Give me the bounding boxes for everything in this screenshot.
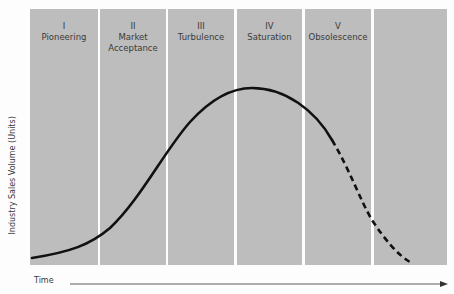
x-axis-label: Time (34, 276, 54, 285)
time-arrow-icon (440, 281, 448, 287)
sales-curve (0, 0, 454, 294)
sales-curve-solid (32, 88, 332, 258)
y-axis-label: Industry Sales Volume (Units) (8, 135, 17, 235)
sales-curve-dashed (332, 140, 410, 262)
